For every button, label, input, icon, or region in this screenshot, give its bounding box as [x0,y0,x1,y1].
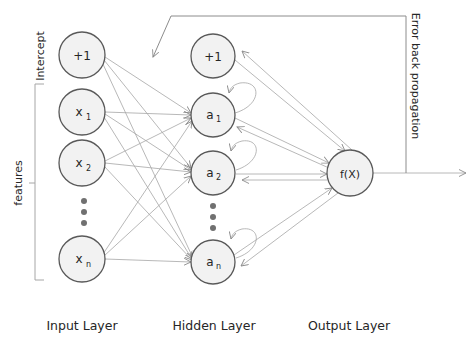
hidden-node-bias: +1 [191,34,235,78]
features-label: features [12,160,25,206]
hidden-node-a1: a 1 [191,93,235,137]
svg-text:a: a [206,166,213,180]
neural-network-diagram: +1 x 1 x 2 x n +1 a [0,0,476,351]
input-node-x1: x 1 [59,89,105,135]
output-layer-label: Output Layer [308,318,391,333]
svg-text:2: 2 [86,164,91,173]
svg-text:+1: +1 [73,49,91,63]
svg-text:1: 1 [86,113,91,122]
svg-text:+1: +1 [204,50,222,64]
input-node-x2: x 2 [59,140,105,186]
svg-text:f(X): f(X) [340,168,360,181]
svg-text:2: 2 [216,173,221,182]
svg-text:a: a [206,255,213,269]
svg-text:a: a [206,108,213,122]
hidden-layer: +1 a 1 a 2 a n [191,34,235,284]
output-layer: f(X) [327,150,373,196]
svg-text:n: n [86,260,91,269]
hidden-ellipsis [210,203,216,231]
input-layer-label: Input Layer [46,318,118,333]
backprop-label: Error back propagation [409,13,422,139]
input-layer: +1 x 1 x 2 x n [59,32,105,282]
input-node-xn: x n [59,236,105,282]
svg-text:x: x [75,252,82,266]
hidden-node-an: a n [191,240,235,284]
features-bracket [35,84,44,280]
hidden-node-a2: a 2 [191,151,235,195]
intercept-label: Intercept [34,30,47,80]
input-hidden-edges [102,57,193,262]
layer-labels: Input Layer Hidden Layer Output Layer [46,318,391,333]
output-node-fx: f(X) [327,150,373,196]
hidden-layer-label: Hidden Layer [172,318,256,333]
svg-text:1: 1 [216,115,221,124]
svg-text:x: x [75,156,82,170]
svg-text:x: x [75,105,82,119]
input-node-bias: +1 [59,32,105,78]
input-ellipsis [81,198,87,226]
svg-text:n: n [216,262,221,271]
backprop-path [153,16,406,173]
